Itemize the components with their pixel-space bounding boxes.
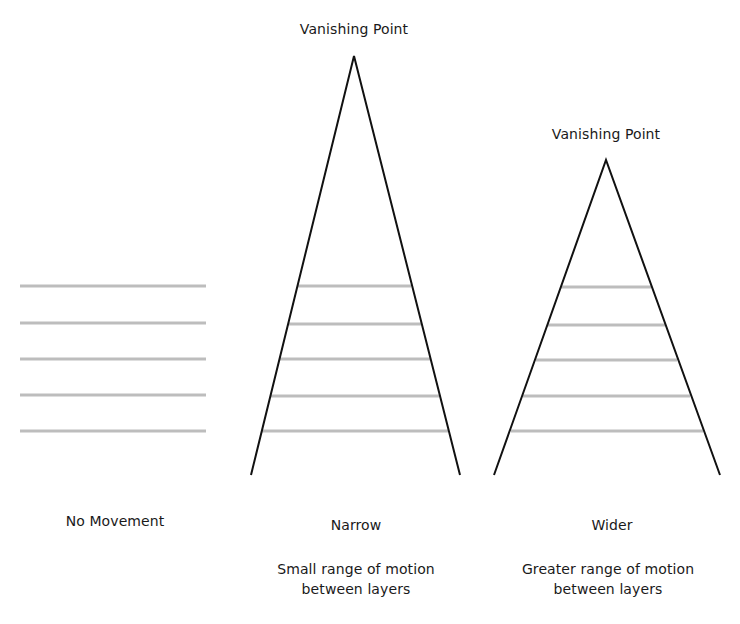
wider-vanishing-point-label: Vanishing Point [552,125,660,144]
wider-perspective-triangle [494,160,720,475]
wider-layers [511,287,703,431]
no-movement-layers [20,286,206,431]
no-movement-title: No Movement [66,512,165,531]
wider-description: Greater range of motion between layers [522,559,694,599]
wider-description-line2: between layers [522,579,694,599]
wider-description-line1: Greater range of motion [522,559,694,579]
narrow-perspective-triangle [251,56,460,475]
narrow-title: Narrow [331,516,382,535]
narrow-description-line1: Small range of motion [277,559,435,579]
wider-title: Wider [591,516,632,535]
narrow-description-line2: between layers [277,579,435,599]
narrow-description: Small range of motion between layers [277,559,435,599]
narrow-vanishing-point-label: Vanishing Point [300,20,408,39]
narrow-layers [262,286,448,431]
